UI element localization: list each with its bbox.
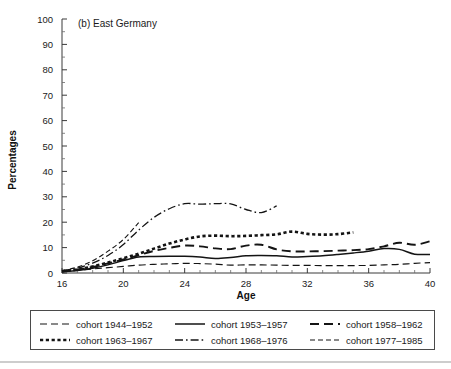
x-tick-label: 24 — [179, 278, 190, 289]
legend-label: cohort 1953–1957 — [211, 319, 288, 330]
y-tick-label: 100 — [37, 14, 53, 25]
legend-label: cohort 1944–1952 — [76, 319, 153, 330]
legend-label: cohort 1963–1967 — [76, 335, 153, 346]
panel-title: (b) East Germany — [78, 18, 157, 29]
x-tick-label: 40 — [425, 278, 436, 289]
legend-label: cohort 1977–1985 — [346, 335, 423, 346]
figure-background — [0, 0, 451, 369]
y-axis-title: Percentages — [7, 130, 18, 190]
x-tick-label: 16 — [57, 278, 68, 289]
y-tick-label: 50 — [42, 141, 53, 152]
y-tick-label: 40 — [42, 166, 53, 177]
y-tick-label: 20 — [42, 217, 53, 228]
x-tick-label: 36 — [363, 278, 374, 289]
y-tick-label: 90 — [42, 39, 53, 50]
y-tick-label: 60 — [42, 115, 53, 126]
x-tick-label: 32 — [302, 278, 313, 289]
x-tick-label: 28 — [241, 278, 252, 289]
y-tick-label: 70 — [42, 90, 53, 101]
x-axis-title: Age — [237, 290, 256, 301]
legend-label: cohort 1958–1962 — [346, 319, 423, 330]
y-tick-label: 10 — [42, 242, 53, 253]
legend-label: cohort 1968–1976 — [211, 335, 288, 346]
y-tick-label: 80 — [42, 64, 53, 75]
chart-figure: Percentages 0102030405060708090100 16202… — [0, 0, 451, 369]
x-tick-label: 20 — [118, 278, 129, 289]
y-tick-label: 30 — [42, 191, 53, 202]
y-tick-label: 0 — [48, 268, 53, 279]
